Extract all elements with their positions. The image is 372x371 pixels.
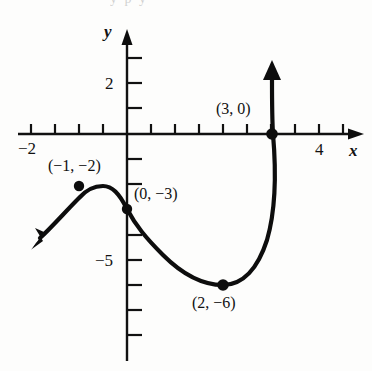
x-axis-label: x [349,142,358,159]
annotation-point-neg1-neg2: (−1, −2) [48,158,101,174]
x-axis-ticks [31,124,343,134]
annotation-point-3-0: (3, 0) [216,101,251,117]
point-marker-2-neg6 [217,279,229,291]
graph-figure: y p y [0,0,372,371]
y-axis-label: y [104,23,112,40]
x-tick-label-4: 4 [315,141,324,158]
x-axis-arrow-icon [348,129,364,140]
point-marker-neg1-neg2 [74,181,84,191]
point-marker-3-0 [266,128,278,140]
annotation-point-2-neg6: (2, −6) [192,295,236,311]
curve-right-arrow-icon [263,60,281,80]
y-axis-arrow-icon [122,29,133,45]
y-tick-label-2: 2 [105,75,114,92]
x-tick-label-neg2: −2 [18,140,36,157]
coordinate-plane-svg [0,0,372,371]
annotation-point-0-neg3: (0, −3) [134,186,178,202]
y-tick-label-neg5: −5 [95,252,113,269]
point-marker-0-neg3 [122,204,132,214]
